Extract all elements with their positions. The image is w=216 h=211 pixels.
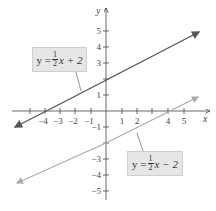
svg-text:−1: −1	[91, 122, 101, 132]
svg-text:5: 5	[182, 116, 187, 126]
svg-text:−4: −4	[91, 170, 101, 180]
fraction: 12	[148, 155, 154, 172]
svg-text:4: 4	[166, 116, 171, 126]
eq-suffix: x + 2	[59, 54, 82, 66]
svg-text:1: 1	[97, 90, 102, 100]
y-axis-label: y	[95, 5, 101, 16]
svg-text:2: 2	[135, 116, 140, 126]
svg-text:−2: −2	[68, 116, 78, 126]
leader-line-1	[76, 72, 81, 91]
denominator: 2	[53, 60, 57, 68]
svg-text:3: 3	[97, 58, 102, 68]
eq-suffix: x − 2	[155, 158, 178, 170]
svg-text:5: 5	[97, 26, 102, 36]
equation-label-lower: y = 12 x − 2	[127, 151, 183, 176]
eq-prefix: y =	[37, 54, 51, 66]
leader-line-2	[137, 133, 143, 151]
denominator: 2	[149, 164, 153, 172]
svg-text:−3: −3	[53, 116, 63, 126]
svg-text:−4: −4	[38, 116, 48, 126]
fraction: 12	[52, 51, 58, 68]
svg-text:1: 1	[120, 116, 125, 126]
equation-label-upper: y = 12 x + 2	[32, 47, 87, 72]
svg-text:−5: −5	[91, 186, 101, 196]
svg-text:−3: −3	[91, 154, 101, 164]
eq-prefix: y =	[132, 158, 146, 170]
coordinate-plane: −4−3−2−1 1245 5431 −1−3−4−5 x y	[0, 0, 216, 211]
x-axis-label: x	[202, 113, 208, 124]
x-tick-labels: −4−3−2−1 1245	[38, 116, 187, 126]
svg-text:4: 4	[97, 42, 102, 52]
